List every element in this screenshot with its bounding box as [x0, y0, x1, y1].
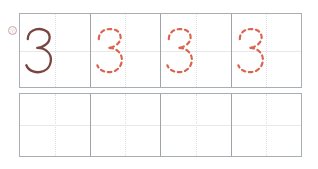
tracing-cell-1[interactable] [20, 14, 91, 87]
practice-cell-2[interactable] [91, 94, 162, 156]
trace-glyph-3-dashed [163, 15, 198, 87]
practice-cell-3[interactable] [161, 94, 232, 156]
guide-horizontal-icon [91, 125, 161, 126]
practice-cell-1[interactable] [20, 94, 91, 156]
row-marker-icon: ⓘ [8, 26, 17, 35]
glyph-stroke-path [26, 29, 51, 72]
tracing-cell-2[interactable] [91, 14, 162, 87]
worksheet-page: ⓘ [0, 0, 318, 169]
guide-vertical-icon [266, 94, 267, 156]
trace-glyph-3-dashed [93, 15, 128, 87]
guide-vertical-icon [125, 94, 126, 156]
guide-horizontal-icon [161, 125, 231, 126]
glyph-stroke-path [167, 29, 192, 72]
guide-vertical-icon [196, 94, 197, 156]
tracing-cell-4[interactable] [232, 14, 302, 87]
tracing-row [19, 13, 302, 88]
practice-cell-4[interactable] [232, 94, 302, 156]
glyph-stroke-path [97, 29, 122, 72]
glyph-stroke-path [238, 29, 263, 72]
trace-glyph-3-solid [22, 15, 57, 87]
blank-practice-row [19, 93, 302, 157]
trace-glyph-3-dashed [234, 15, 269, 87]
guide-horizontal-icon [232, 125, 302, 126]
guide-vertical-icon [55, 94, 56, 156]
guide-horizontal-icon [20, 125, 90, 126]
tracing-cell-3[interactable] [161, 14, 232, 87]
